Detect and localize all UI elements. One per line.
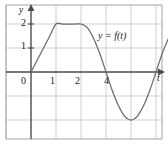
y-axis-label: y — [19, 6, 23, 16]
x-tick-label-1: 1 — [50, 76, 55, 86]
y-tick-label-2: 2 — [21, 18, 26, 28]
y-tick-label-1: 1 — [21, 41, 26, 51]
x-tick-label-0: 0 — [21, 76, 26, 86]
curve-equation-label: y = f(t) — [98, 31, 126, 41]
x-axis-label: t — [157, 74, 160, 84]
graph-figure: y t 2 1 0 1 2 4 y = f(t) — [0, 0, 168, 144]
x-tick-label-4: 4 — [104, 76, 109, 86]
x-tick-label-2: 2 — [75, 76, 80, 86]
